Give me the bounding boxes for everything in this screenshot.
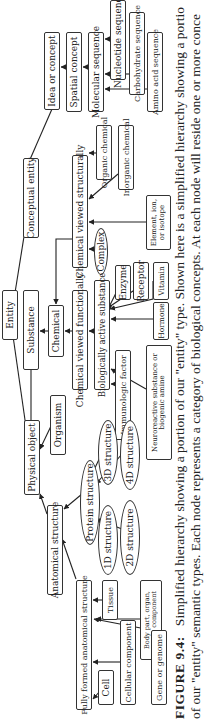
node-vitamin: Vitamin [153, 262, 169, 300]
node-cellular-component: Cellular component [120, 620, 136, 705]
edge-idea-conceptual [28, 109, 52, 164]
node-2d-structure: 2D structure [120, 500, 140, 575]
node-gene-or-genome: Gene or genome [151, 630, 167, 705]
node-organism: Organism [50, 395, 66, 455]
node-element-ion-isotope: Element, ion, or isotope [146, 195, 171, 250]
node-conceptual-entity: Conceptual entity [23, 158, 39, 238]
node-1d-structure: 1D structure [98, 505, 118, 575]
node-nucleotide-sequence: Nucleotide sequence [110, 0, 126, 80]
caption-line-1: FIGURE 9.4: Simplified hierarchy showing… [172, 0, 188, 719]
node-chemical-viewed-functionally: Chemical viewed functionally [72, 290, 88, 390]
node-organic-chemical: Organic chemical [96, 125, 112, 180]
node-inorganic-chemical: Inorganic chemical [118, 125, 134, 190]
node-protein-structure: Protein structure [80, 460, 100, 545]
node-enzyme: Enzyme [115, 265, 131, 300]
figure-rotated-stage: Idea or concept Spatial concept Molecula… [0, 0, 204, 719]
node-molecular-sequence: Molecular sequence [88, 32, 104, 112]
figure-caption: FIGURE 9.4: Simplified hierarchy showing… [172, 0, 204, 719]
node-spatial-concept: Spatial concept [66, 32, 82, 112]
caption-label: FIGURE 9.4: [172, 636, 187, 719]
node-3d-structure: 3D structure [98, 420, 118, 485]
node-chemical: Chemical [48, 305, 64, 357]
node-fully-formed-anatomical-structure: Fully formed anatomical structure [76, 580, 92, 710]
node-4d-structure: 4D structure [120, 420, 140, 490]
node-physical-object: Physical object [24, 420, 40, 495]
node-receptor: Receptor [133, 262, 149, 300]
node-substance: Substance [23, 290, 39, 370]
node-complex: Complex [94, 228, 108, 275]
node-entity: Entity [2, 290, 18, 340]
node-carbohydrate-sequence: Carbohydrate sequence [129, 12, 145, 95]
node-neuroreactive-substance: Neuroreactive substance or biogenic amin… [146, 345, 172, 460]
node-tissue: Tissue [102, 580, 118, 620]
node-biologically-active-substance: Biologically active substance [94, 280, 110, 390]
caption-text-1: Simplified hierarchy showing a portion o… [172, 7, 187, 626]
node-chemical-viewed-structurally: Chemical viewed structurally [72, 155, 88, 268]
node-amino-acid-sequence: Amino acid sequence [147, 32, 163, 112]
node-cell: Cell [98, 670, 114, 705]
node-anatomical-structure: Anatomical structure [47, 505, 63, 595]
caption-line-2: of our "entity" semantic types. Each nod… [188, 0, 204, 719]
node-hormone: Hormone [153, 302, 169, 340]
node-idea-or-concept: Idea or concept [44, 32, 60, 110]
